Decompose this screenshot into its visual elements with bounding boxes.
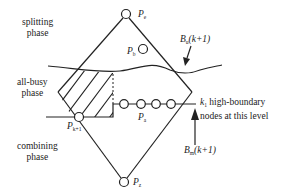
node-circle-bottom [120, 178, 129, 187]
node-circle-a3 [152, 100, 161, 109]
all-busy-phase-label: all-busy phase [17, 77, 48, 99]
node-label-top: Pe [138, 9, 146, 23]
lower-boundary-arrow [191, 108, 199, 145]
high-boundary-annotation: k1 high-boundary nodes at this level [200, 97, 268, 122]
upper-boundary-label: Bu(k+1) [180, 34, 210, 48]
upper-boundary-arrow [183, 46, 191, 66]
upper-boundary-curve [48, 65, 222, 73]
node-circle-a1 [120, 100, 129, 109]
node-label-b: Pb [127, 46, 136, 60]
lower-boundary-label: Bm(k+1) [184, 145, 216, 159]
node-label-bottom: Pz [133, 177, 141, 191]
node-circle-a2 [137, 100, 146, 109]
node-circle-top [122, 10, 131, 19]
node-circle-b [139, 45, 148, 54]
node-circle-a4 [167, 100, 176, 109]
splitting-phase-label: splitting phase [22, 17, 53, 39]
node-label-left: Pk+1 [67, 121, 81, 135]
diamond-outline [58, 18, 192, 178]
node-label-a: Pa [138, 112, 146, 126]
combining-phase-label: combining phase [17, 141, 58, 163]
